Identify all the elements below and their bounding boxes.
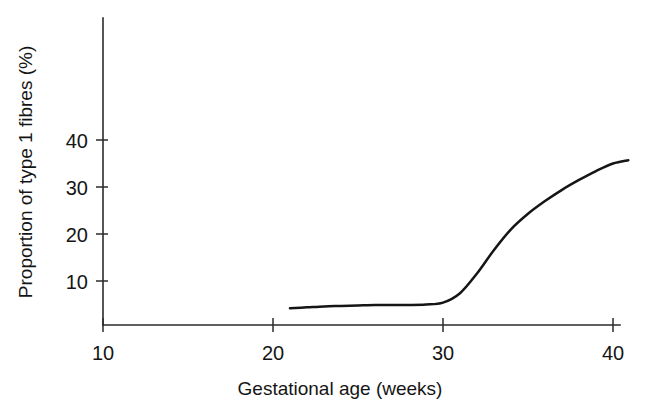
data-curve-type1-fibres <box>290 160 628 308</box>
x-axis-title: Gestational age (weeks) <box>238 378 443 399</box>
y-tick-label-20: 20 <box>66 224 88 246</box>
x-tick-label-30: 30 <box>432 342 454 364</box>
chart-figure: 40 30 20 10 10 20 30 40 Gestational age … <box>0 0 656 408</box>
y-tick-label-10: 10 <box>66 271 88 293</box>
y-tick-label-30: 30 <box>66 177 88 199</box>
x-tick-label-40: 40 <box>602 342 624 364</box>
x-tick-label-20: 20 <box>262 342 284 364</box>
x-tick-label-10: 10 <box>92 342 114 364</box>
y-tick-label-40: 40 <box>66 130 88 152</box>
chart-plot-area: 40 30 20 10 10 20 30 40 Gestational age … <box>0 0 656 408</box>
y-axis-title: Proportion of type 1 fibres (%) <box>15 46 36 298</box>
